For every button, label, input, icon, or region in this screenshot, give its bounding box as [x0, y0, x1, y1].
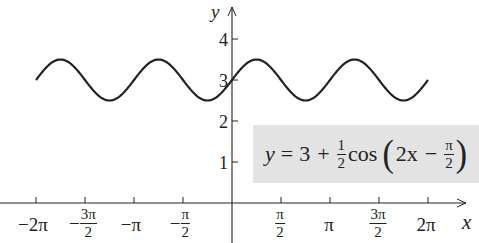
x-tick-label-2pi: 2π: [416, 214, 435, 236]
x-tick-label-neg-3pi-2: − 3π2: [69, 207, 97, 240]
left-paren: (: [382, 135, 393, 172]
y-tick-label-2: 2: [219, 113, 228, 131]
x-tick-label-neg-2pi: −2π: [18, 214, 48, 236]
y-axis-label: y: [211, 2, 219, 21]
coefficient-fraction: 12: [337, 138, 347, 171]
fraction: 3π2: [369, 207, 386, 240]
equation: y = 3 + 12 cos ( 2x − π2 ): [265, 137, 467, 171]
x-axis-label: x: [462, 212, 471, 233]
y-tick-label-4: 4: [219, 31, 228, 49]
y-tick-label-3: 3: [219, 72, 228, 90]
x-tick-label-pi: π: [324, 214, 334, 236]
x-tick-label-neg-pi-2: − π2: [170, 207, 190, 240]
x-tick-label-pi-2: π2: [275, 207, 285, 240]
fraction: π2: [275, 207, 285, 240]
right-paren: ): [456, 135, 467, 172]
y-tick-label-1: 1: [219, 154, 228, 172]
equation-box: y = 3 + 12 cos ( 2x − π2 ): [253, 125, 479, 183]
y-ticks: [232, 39, 238, 162]
x-tick-label-neg-pi: −π: [121, 214, 141, 236]
x-tick-label-3pi-2: 3π2: [369, 207, 386, 240]
phase-fraction: π2: [444, 138, 454, 171]
fraction: 3π2: [80, 207, 97, 240]
fraction: π2: [181, 207, 191, 240]
